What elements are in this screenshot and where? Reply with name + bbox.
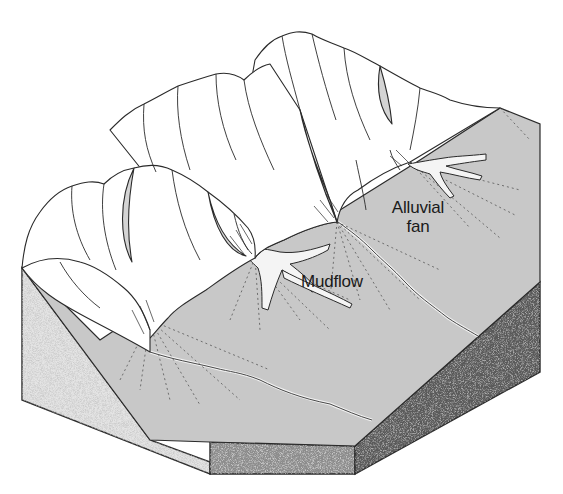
label-alluvial-fan-line-1: Alluvial — [378, 198, 458, 217]
block-side-front — [210, 442, 355, 474]
block-diagram: Alluvial fan Mudflow — [0, 0, 563, 494]
label-alluvial-fan-line-2: fan — [378, 217, 458, 236]
landscape-illustration — [0, 0, 563, 494]
label-alluvial-fan: Alluvial fan — [378, 198, 458, 236]
label-mudflow-line-1: Mudflow — [292, 272, 372, 291]
label-mudflow: Mudflow — [292, 272, 372, 291]
